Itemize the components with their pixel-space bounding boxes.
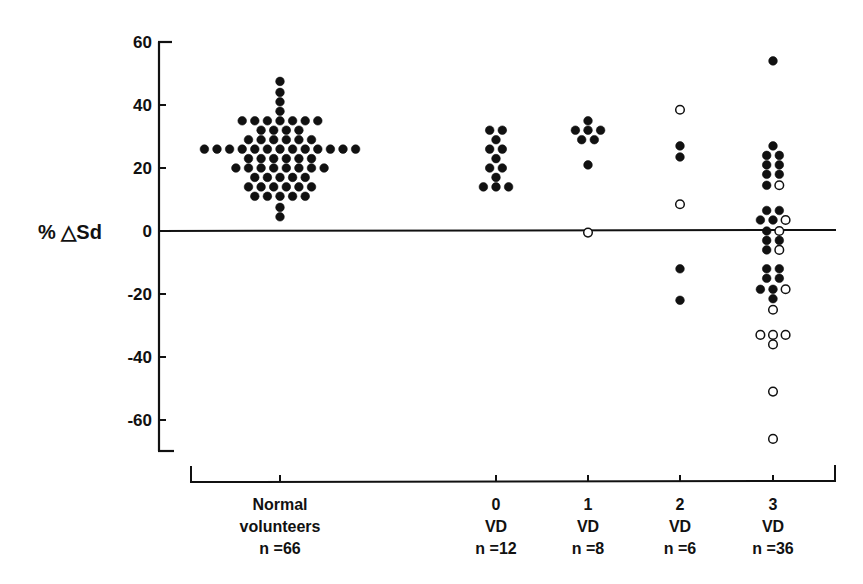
filled-dot — [769, 285, 778, 294]
filled-dot — [339, 145, 348, 154]
category-label-vd0-line3: n =12 — [475, 540, 516, 557]
filled-dot — [251, 145, 260, 154]
filled-dot — [307, 154, 316, 163]
filled-dot — [676, 153, 685, 162]
filled-dot — [596, 126, 605, 135]
open-dot — [676, 200, 685, 209]
filled-dot — [498, 145, 507, 154]
filled-dot — [301, 192, 310, 201]
filled-dot — [282, 164, 291, 173]
filled-dot — [504, 183, 513, 192]
category-label-vd0-line1: 0 — [492, 496, 501, 513]
filled-dot — [301, 145, 310, 154]
category-label-vd2-line1: 2 — [676, 496, 685, 513]
filled-dot — [762, 274, 771, 283]
y-tick-label: 40 — [133, 96, 152, 115]
y-tick-label: 20 — [133, 159, 152, 178]
open-dot — [584, 228, 593, 237]
filled-dot — [257, 154, 266, 163]
filled-dot — [269, 164, 278, 173]
filled-dot — [762, 227, 771, 236]
series-vd0 — [479, 126, 513, 191]
filled-dot — [276, 203, 285, 212]
filled-dot — [288, 117, 297, 126]
filled-dot — [307, 183, 316, 192]
filled-dot — [276, 88, 285, 97]
filled-dot — [762, 170, 771, 179]
category-label-vd2-line3: n =6 — [664, 540, 697, 557]
filled-dot — [244, 154, 253, 163]
filled-dot — [676, 265, 685, 274]
filled-dot — [498, 126, 507, 135]
filled-dot — [756, 216, 765, 225]
filled-dot — [276, 173, 285, 182]
filled-dot — [288, 173, 297, 182]
filled-dot — [263, 173, 272, 182]
y-tick-label: 60 — [133, 33, 152, 52]
filled-dot — [775, 151, 784, 160]
filled-dot — [200, 145, 209, 154]
data-points — [200, 57, 790, 444]
filled-dot — [775, 170, 784, 179]
y-tick-label: -40 — [127, 348, 152, 367]
open-dot — [769, 435, 778, 444]
filled-dot — [288, 192, 297, 201]
filled-dot — [238, 117, 247, 126]
filled-dot — [485, 126, 494, 135]
open-dot — [775, 227, 784, 236]
filled-dot — [584, 126, 593, 135]
x-axis-line — [190, 481, 836, 482]
open-dot — [769, 340, 778, 349]
filled-dot — [676, 142, 685, 151]
filled-dot — [263, 145, 272, 154]
category-label-vd0-line2: VD — [485, 518, 507, 535]
filled-dot — [756, 285, 765, 294]
filled-dot — [492, 135, 501, 144]
category-label-vd1-line2: VD — [577, 518, 599, 535]
filled-dot — [485, 164, 494, 173]
filled-dot — [295, 164, 304, 173]
filled-dot — [213, 145, 222, 154]
open-dot — [775, 181, 784, 190]
filled-dot — [257, 135, 266, 144]
filled-dot — [276, 107, 285, 116]
filled-dot — [257, 126, 266, 135]
filled-dot — [762, 161, 771, 170]
filled-dot — [492, 173, 501, 182]
filled-dot — [584, 117, 593, 126]
filled-dot — [282, 154, 291, 163]
filled-dot — [232, 164, 241, 173]
series-vd1 — [571, 117, 605, 237]
category-label-normal-line1: Normal — [252, 496, 307, 513]
y-axis-title: % △Sd — [38, 221, 102, 243]
open-dot — [676, 105, 685, 114]
filled-dot — [276, 98, 285, 107]
category-label-vd3-line2: VD — [762, 518, 784, 535]
filled-dot — [282, 126, 291, 135]
open-dot — [769, 306, 778, 315]
filled-dot — [269, 183, 278, 192]
filled-dot — [269, 135, 278, 144]
filled-dot — [676, 296, 685, 305]
open-dot — [775, 246, 784, 255]
filled-dot — [238, 145, 247, 154]
filled-dot — [269, 126, 278, 135]
dot-plot-chart: 6040200-20-40-60 % △Sd Normalvolunteersn… — [0, 0, 863, 584]
filled-dot — [276, 117, 285, 126]
x-ticks: Normalvolunteersn =660VDn =121VDn =82VDn… — [240, 475, 794, 557]
filled-dot — [326, 145, 335, 154]
series-vd2 — [676, 105, 685, 304]
filled-dot — [492, 154, 501, 163]
filled-dot — [301, 117, 310, 126]
y-tick-label: -60 — [127, 411, 152, 430]
filled-dot — [257, 164, 266, 173]
y-tick-label: 0 — [143, 222, 152, 241]
filled-dot — [263, 192, 272, 201]
open-dot — [769, 331, 778, 340]
filled-dot — [295, 154, 304, 163]
open-dot — [781, 331, 790, 340]
filled-dot — [775, 236, 784, 245]
filled-dot — [288, 145, 297, 154]
filled-dot — [775, 161, 784, 170]
filled-dot — [251, 173, 260, 182]
